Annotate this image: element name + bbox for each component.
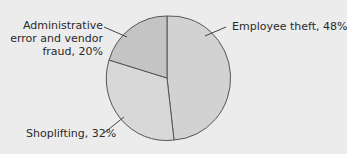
label-shoplifting: Shoplifting, 32% xyxy=(26,127,116,140)
label-employee-theft: Employee theft, 48% xyxy=(232,20,347,33)
label-admin-error: Administrative error and vendor fraud, 2… xyxy=(10,19,103,58)
slice-employee-theft xyxy=(167,16,231,140)
label-admin-line1: Administrative xyxy=(10,19,103,32)
label-admin-line3: fraud, 20% xyxy=(10,45,103,58)
label-admin-line2: error and vendor xyxy=(10,32,103,45)
leader-line-admin xyxy=(104,27,127,37)
